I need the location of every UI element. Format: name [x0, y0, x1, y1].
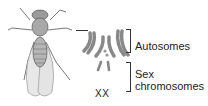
fruit-fly-illustration: [0, 0, 80, 106]
sex-label: Sex: [135, 68, 154, 80]
sex-chromosomes-bracket: [126, 62, 131, 92]
genotype-label: XX: [95, 88, 109, 99]
chromosome-set: [80, 25, 130, 85]
autosomes-bracket: [126, 29, 131, 53]
chromosomes-label: chromosomes: [135, 80, 204, 92]
autosomes-label: Autosomes: [135, 40, 190, 52]
